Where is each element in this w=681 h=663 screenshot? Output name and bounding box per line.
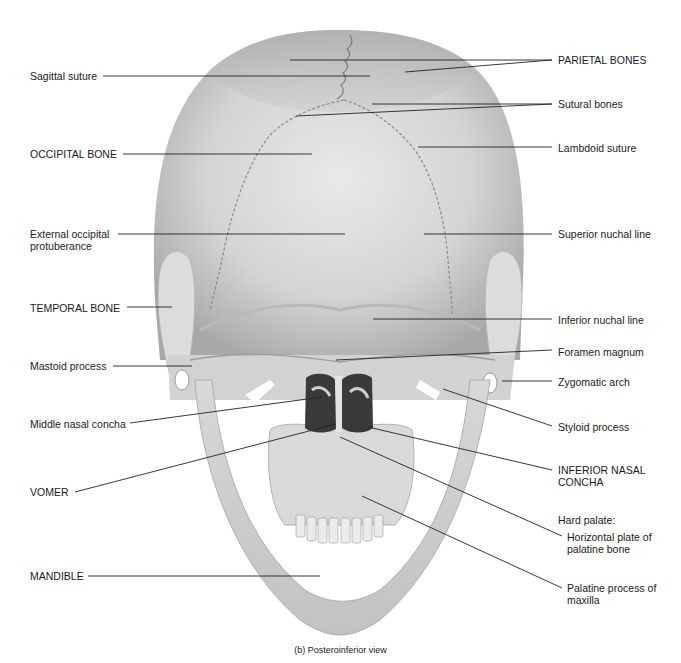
label-line: CONCHA [558, 476, 646, 488]
label-occipital-bone: OCCIPITAL BONE [30, 148, 117, 160]
label-line: External occipital [30, 228, 109, 240]
label-line: Palatine process of [567, 582, 656, 594]
label-vomer: VOMER [30, 486, 69, 498]
label-line: INFERIOR NASAL [558, 464, 646, 476]
label-line: palatine bone [567, 543, 652, 555]
label-zygomatic-arch: Zygomatic arch [558, 376, 630, 388]
label-line: Horizontal plate of [567, 531, 652, 543]
label-sagittal-suture: Sagittal suture [30, 70, 97, 82]
nasal-cavity [305, 374, 373, 433]
label-sutural-bones: Sutural bones [558, 98, 623, 110]
figure-caption: (b) Posteroinferior view [0, 645, 681, 655]
label-styloid-process: Styloid process [558, 421, 629, 433]
label-foramen-magnum: Foramen magnum [558, 346, 644, 358]
label-inferior-nuchal-line: Inferior nuchal line [558, 314, 644, 326]
cranium [154, 30, 524, 375]
label-hard-palate: Hard palate: [558, 514, 615, 526]
label-mandible: MANDIBLE [30, 570, 84, 582]
label-lambdoid-suture: Lambdoid suture [558, 142, 636, 154]
label-palatine-process-of-maxilla: Palatine process of maxilla [567, 582, 656, 606]
hard-palate [268, 424, 414, 543]
label-parietal-bones: PARIETAL BONES [558, 54, 647, 66]
label-horizontal-plate-of-palatine-bone: Horizontal plate of palatine bone [567, 531, 652, 555]
label-mastoid-process: Mastoid process [30, 360, 106, 372]
label-line: protuberance [30, 240, 109, 252]
label-line: maxilla [567, 594, 656, 606]
label-inferior-nasal-concha: INFERIOR NASAL CONCHA [558, 464, 646, 488]
label-superior-nuchal-line: Superior nuchal line [558, 228, 651, 240]
label-external-occipital-protuberance: External occipital protuberance [30, 228, 109, 252]
label-temporal-bone: TEMPORAL BONE [30, 302, 120, 314]
label-middle-nasal-concha: Middle nasal concha [30, 418, 126, 430]
